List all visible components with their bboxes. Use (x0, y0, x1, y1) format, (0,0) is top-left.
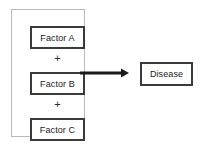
plus-symbol: + (54, 98, 60, 110)
factor-b-box[interactable]: Factor B (30, 72, 85, 95)
factor-b-label: Factor B (40, 79, 75, 89)
arrow-right-icon (80, 66, 130, 80)
diagram-canvas: Factor A + Factor B + Factor C Disease (0, 0, 221, 147)
factor-c-label: Factor C (40, 125, 75, 135)
factor-group-container: Factor A + Factor B + Factor C (11, 9, 85, 137)
plus-symbol: + (54, 52, 60, 64)
plus-operator-b-c: + (30, 96, 85, 112)
factor-c-box[interactable]: Factor C (30, 118, 85, 141)
factor-a-box[interactable]: Factor A (30, 26, 85, 49)
disease-label: Disease (150, 69, 183, 79)
factor-a-label: Factor A (40, 33, 74, 43)
disease-box[interactable]: Disease (140, 62, 193, 86)
plus-operator-a-b: + (30, 50, 85, 66)
